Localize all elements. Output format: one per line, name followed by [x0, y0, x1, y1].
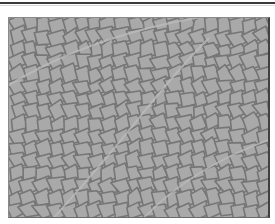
- top-rule-shadow: [0, 5, 275, 6]
- top-rule: [0, 2, 275, 4]
- venation-network: [9, 18, 268, 217]
- leaf-venation-image: [8, 17, 270, 218]
